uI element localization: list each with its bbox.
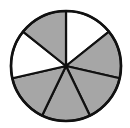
pie-circle [0,0,130,128]
fraction-circle-diagram [0,0,130,128]
